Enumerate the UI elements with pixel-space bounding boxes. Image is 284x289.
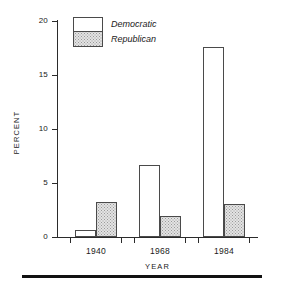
bar-1968-democratic: [139, 165, 160, 237]
x-tick-label-1940: 1940: [76, 247, 116, 256]
x-tick-3: [185, 237, 186, 243]
bar-1984-republican: [224, 204, 245, 237]
y-tick-label-0: 0: [24, 233, 48, 241]
x-axis-title: YEAR: [57, 262, 258, 271]
x-tick-label-1968: 1968: [140, 247, 180, 256]
y-tick-10: [52, 129, 58, 130]
bottom-rule: [22, 275, 262, 278]
x-tick-2: [134, 237, 135, 243]
y-tick-label-10: 10: [24, 125, 48, 133]
legend-swatch-democratic: [74, 18, 102, 32]
y-tick-label-5: 5: [24, 179, 48, 187]
bar-1984-democratic: [203, 47, 224, 237]
y-tick-15: [52, 75, 58, 76]
legend-swatch-box: [73, 17, 103, 47]
y-tick-5: [52, 183, 58, 184]
bar-1968-republican: [160, 216, 181, 237]
legend-swatch-republican: [74, 32, 102, 46]
x-tick-5: [249, 237, 250, 243]
bar-1940-democratic: [75, 230, 96, 237]
x-tick-4: [198, 237, 199, 243]
x-tick-1: [121, 237, 122, 243]
x-tick-0: [70, 237, 71, 243]
x-axis-line: [57, 237, 258, 238]
bar-chart-figure: 20 15 10 5 0 PERCENT: [0, 0, 284, 289]
legend-label-democratic: Democratic: [111, 19, 157, 29]
y-axis-title: PERCENT: [12, 103, 21, 163]
x-tick-label-1984: 1984: [204, 247, 244, 256]
legend-label-republican: Republican: [111, 34, 156, 44]
y-tick-20: [52, 21, 58, 22]
y-tick-0: [52, 237, 58, 238]
y-tick-label-20: 20: [24, 17, 48, 25]
bar-1940-republican: [96, 202, 117, 237]
y-tick-label-15: 15: [24, 71, 48, 79]
plot-area: 20 15 10 5 0 PERCENT: [0, 0, 284, 289]
